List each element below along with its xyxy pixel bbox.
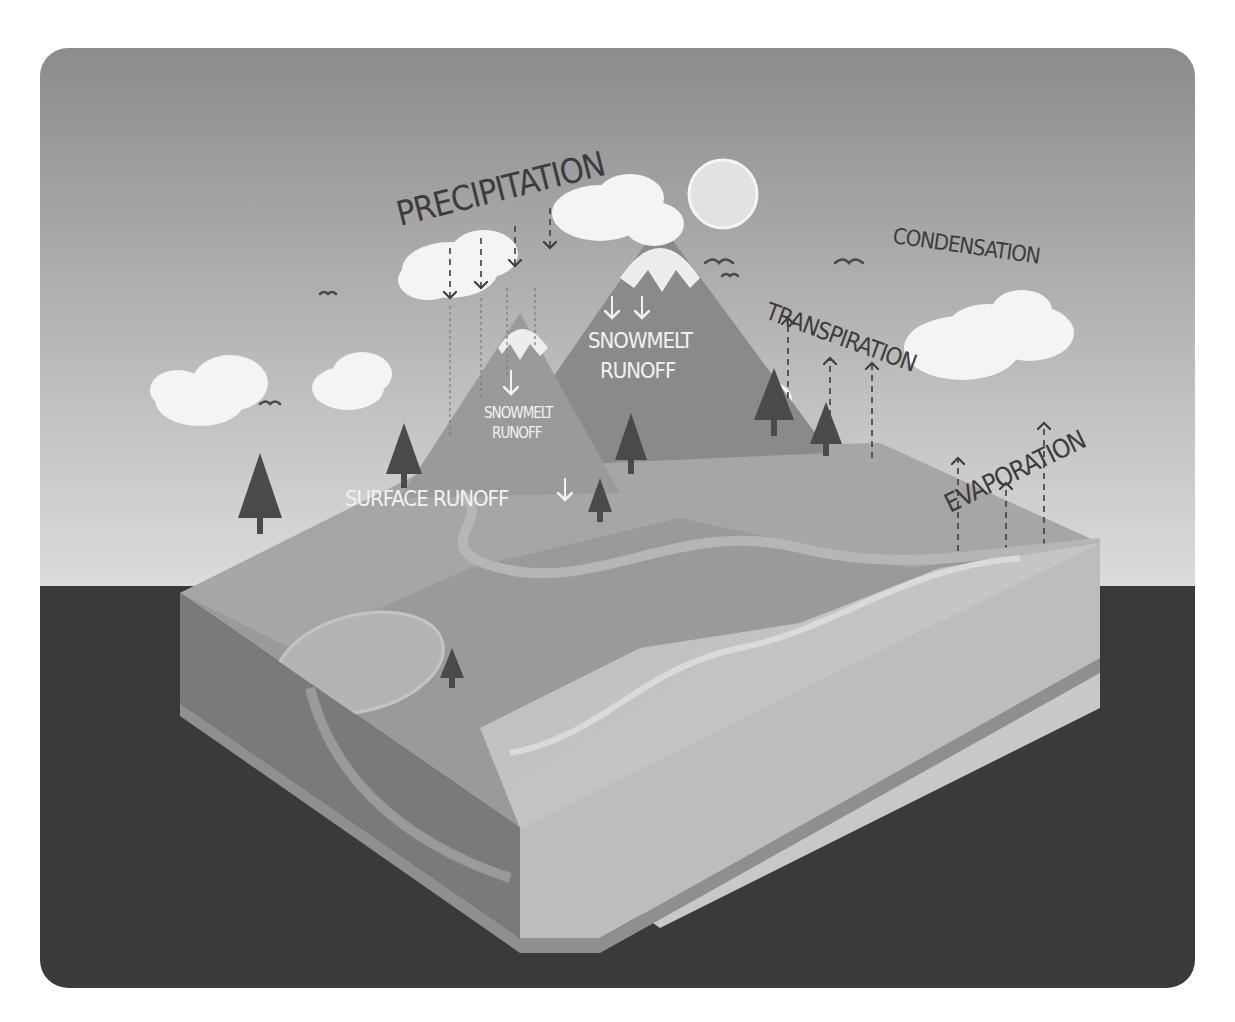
diagram-canvas: PRECIPITATION CONDENSATION TRANSPIRATION… [40,48,1195,988]
label-snowmelt-runoff-large-line1: SNOWMELT [588,328,694,353]
sun-icon [689,160,757,228]
label-snowmelt-runoff-small-line1: SNOWMELT [484,404,554,422]
water-cycle-diagram: PRECIPITATION CONDENSATION TRANSPIRATION… [40,48,1195,988]
label-snowmelt-runoff-small-line2: RUNOFF [492,424,542,442]
label-surface-runoff: SURFACE RUNOFF [345,486,509,511]
label-snowmelt-runoff-large-line2: RUNOFF [600,358,676,383]
